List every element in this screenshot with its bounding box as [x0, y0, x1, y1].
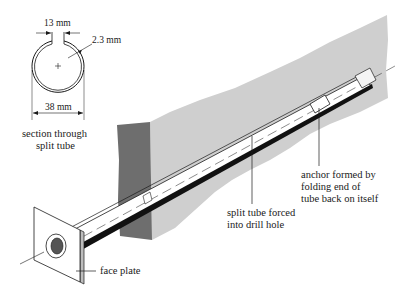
slot-width-label: 13 mm — [44, 18, 71, 28]
anchor-label-line2: folding end of — [301, 181, 361, 192]
split-tube-label-line2: into drill hole — [227, 219, 285, 230]
split-tube-anchor-diagram: 13 mm 2.3 mm 38 mm section through split… — [0, 0, 407, 295]
diameter-label: 38 mm — [45, 102, 72, 112]
section-caption-line1: section through — [22, 128, 88, 139]
face-plate-label: face plate — [100, 265, 141, 276]
split-tube-label-line1: split tube forced — [227, 207, 296, 218]
wall-thickness-label: 2.3 mm — [92, 35, 122, 45]
anchor-label-line3: tube back on itself — [301, 193, 379, 204]
face-plate — [20, 207, 84, 284]
tube-cross-section: 13 mm 2.3 mm 38 mm section through split… — [22, 18, 122, 151]
section-caption-line2: split tube — [36, 140, 75, 151]
anchor-label-line1: anchor formed by — [301, 169, 376, 180]
